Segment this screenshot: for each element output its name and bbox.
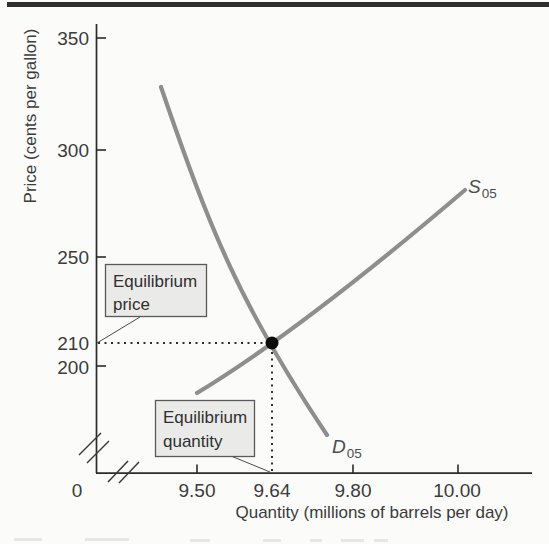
price-callout-line2: price [113, 295, 150, 314]
quantity-callout-pointer-line [231, 456, 270, 472]
cutoff-caption-remnant [14, 538, 388, 542]
quantity-callout-line2: quantity [163, 432, 223, 451]
equilibrium-point-dot [266, 337, 279, 350]
y-tick-250: 250 [57, 247, 89, 268]
y-axis-ticks [97, 38, 106, 366]
y-axis-title: Price (cents per gallon) [21, 29, 40, 204]
y-tick-350: 350 [57, 28, 89, 49]
demand-curve-label: D05 [332, 436, 362, 461]
y-tick-200: 200 [57, 357, 89, 378]
supply-curve [197, 190, 465, 393]
price-callout-line1: Equilibrium [113, 272, 197, 291]
price-callout-pointer-line [97, 317, 140, 343]
demand-curve [161, 87, 327, 435]
y-tick-210: 210 [57, 333, 89, 354]
x-tick-9.50: 9.50 [179, 480, 216, 501]
x-tick-9.64: 9.64 [254, 480, 291, 501]
x-tick-10.00: 10.00 [433, 480, 481, 501]
demand-label-subscript: 05 [347, 446, 362, 461]
x-axis-break-icon [108, 461, 139, 483]
x-axis-ticks [197, 465, 458, 474]
quantity-callout-line1: Equilibrium [163, 408, 247, 427]
demand-label-letter: D [332, 436, 346, 457]
supply-curve-label: S05 [468, 176, 497, 201]
origin-label: 0 [72, 480, 83, 501]
supply-label-subscript: 05 [482, 186, 497, 201]
x-axis-title: Quantity (millions of barrels per day) [235, 503, 508, 522]
top-rule [7, 2, 549, 7]
supply-demand-figure: 350 300 250 210 200 0 9.50 9.64 9.80 10.… [0, 0, 549, 544]
chart-canvas: 350 300 250 210 200 0 9.50 9.64 9.80 10.… [0, 0, 549, 544]
supply-label-letter: S [468, 176, 481, 197]
y-axis-break-icon [79, 433, 109, 463]
x-tick-9.80: 9.80 [335, 480, 372, 501]
y-tick-300: 300 [57, 140, 89, 161]
